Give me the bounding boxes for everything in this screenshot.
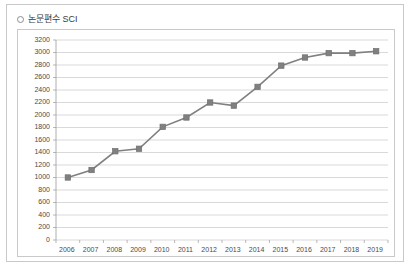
- circle-marker-icon: [17, 16, 24, 23]
- y-tick-label: 3200: [7, 36, 50, 43]
- chart-legend: 논문편수 SCI: [17, 12, 78, 26]
- series-line: [68, 51, 376, 177]
- x-axis-ticks: [56, 240, 388, 243]
- y-tick-label: 1600: [7, 136, 50, 143]
- data-point-marker: [160, 124, 165, 129]
- series-markers: [65, 49, 379, 181]
- y-tick-label: 600: [7, 198, 50, 205]
- y-tick-label: 1000: [7, 173, 50, 180]
- y-tick-label: 2600: [7, 73, 50, 80]
- x-tick-label: 2008: [102, 246, 126, 253]
- y-tick-label: 2200: [7, 98, 50, 105]
- data-point-marker: [136, 146, 141, 151]
- y-tick-label: 3000: [7, 48, 50, 55]
- y-tick-label: 800: [7, 186, 50, 193]
- x-tick-label: 2010: [150, 246, 174, 253]
- data-point-marker: [65, 175, 70, 180]
- plot-area: [17, 29, 395, 257]
- x-tick-label: 2013: [221, 246, 245, 253]
- y-tick-label: 200: [7, 223, 50, 230]
- y-tick-label: 2800: [7, 61, 50, 68]
- y-tick-label: 1200: [7, 161, 50, 168]
- x-tick-label: 2019: [363, 246, 387, 253]
- x-tick-label: 2007: [79, 246, 103, 253]
- data-point-marker: [255, 84, 260, 89]
- data-point-marker: [207, 100, 212, 105]
- chart-svg: [18, 30, 394, 256]
- x-tick-label: 2011: [174, 246, 198, 253]
- x-tick-label: 2006: [55, 246, 79, 253]
- data-point-marker: [89, 167, 94, 172]
- x-tick-label: 2009: [126, 246, 150, 253]
- y-axis-ticks: [53, 40, 56, 240]
- data-point-marker: [184, 115, 189, 120]
- chart-container: 논문편수 SCI 3200300028002600240022002000180…: [6, 4, 404, 262]
- y-tick-label: 0: [7, 236, 50, 243]
- y-tick-label: 1400: [7, 148, 50, 155]
- y-tick-label: 2000: [7, 111, 50, 118]
- gridlines: [56, 40, 388, 240]
- y-tick-label: 2400: [7, 86, 50, 93]
- data-point-marker: [326, 50, 331, 55]
- x-tick-label: 2017: [316, 246, 340, 253]
- data-point-marker: [279, 63, 284, 68]
- x-tick-label: 2014: [245, 246, 269, 253]
- data-point-marker: [302, 55, 307, 60]
- x-tick-label: 2016: [292, 246, 316, 253]
- y-tick-label: 400: [7, 211, 50, 218]
- data-point-marker: [373, 49, 378, 54]
- y-tick-label: 1800: [7, 123, 50, 130]
- x-tick-label: 2018: [340, 246, 364, 253]
- data-point-marker: [350, 50, 355, 55]
- legend-series-label: 논문편수 SCI: [28, 14, 78, 24]
- x-tick-label: 2015: [268, 246, 292, 253]
- data-point-marker: [113, 149, 118, 154]
- data-point-marker: [231, 103, 236, 108]
- x-tick-label: 2012: [197, 246, 221, 253]
